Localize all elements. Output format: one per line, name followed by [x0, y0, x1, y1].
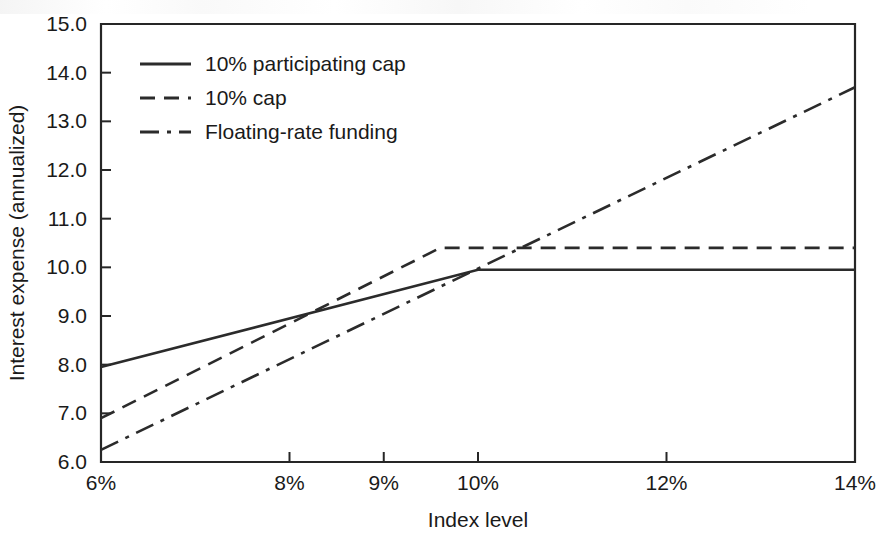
y-tick-label: 13.0	[46, 109, 87, 132]
y-tick-label: 15.0	[46, 12, 87, 35]
y-tick-label: 14.0	[46, 61, 87, 84]
y-tick-label: 10.0	[46, 255, 87, 278]
y-axis-ticks	[101, 73, 111, 414]
y-tick-label: 8.0	[58, 353, 87, 376]
x-axis-title: Index level	[428, 508, 528, 531]
chart-legend: 10% participating cap10% capFloating-rat…	[140, 52, 406, 143]
x-tick-label: 12%	[645, 471, 687, 494]
y-tick-label: 9.0	[58, 304, 87, 327]
y-axis-title: Interest expense (annualized)	[5, 105, 28, 382]
series-dashed	[101, 248, 855, 418]
line-chart: 6.07.08.09.010.011.012.013.014.015.0 6%8…	[0, 0, 881, 537]
series-solid	[101, 270, 855, 367]
legend-label: 10% participating cap	[205, 52, 406, 75]
x-tick-label: 6%	[86, 471, 116, 494]
y-tick-label: 6.0	[58, 450, 87, 473]
x-tick-label: 14%	[834, 471, 876, 494]
legend-label: 10% cap	[205, 86, 287, 109]
x-tick-label: 10%	[457, 471, 499, 494]
y-axis-tick-labels: 6.07.08.09.010.011.012.013.014.015.0	[46, 12, 87, 473]
x-axis-ticks	[290, 452, 667, 462]
y-tick-label: 12.0	[46, 158, 87, 181]
y-tick-label: 11.0	[48, 207, 87, 230]
x-tick-label: 9%	[369, 471, 399, 494]
legend-label: Floating-rate funding	[205, 120, 398, 143]
x-axis-tick-labels: 6%8%9%10%12%14%	[86, 471, 876, 494]
chart-figure: 6.07.08.09.010.011.012.013.014.015.0 6%8…	[0, 0, 881, 537]
y-tick-label: 7.0	[58, 401, 87, 424]
x-tick-label: 8%	[274, 471, 304, 494]
